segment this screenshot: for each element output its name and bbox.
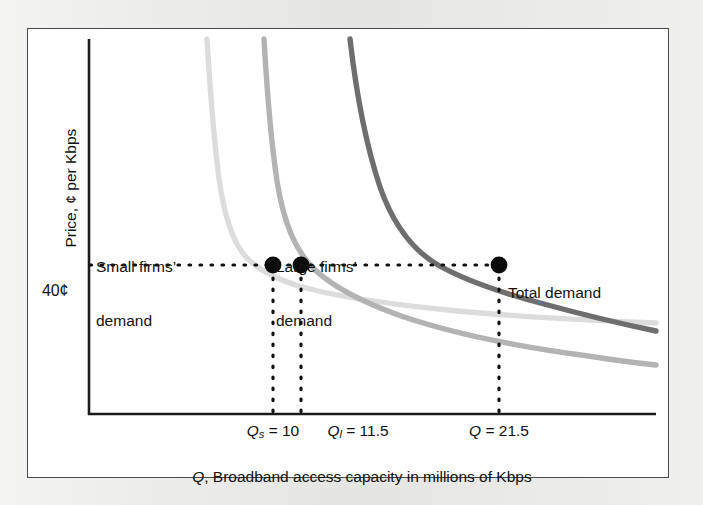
annotation-small-firms-demand: Small firms’ demand [96, 221, 176, 367]
annotation-small-firms-line2: demand [96, 312, 176, 330]
annotation-large-firms-line1: Large firms’ [276, 258, 357, 276]
x-tick-label-q-total: Q = 21.5 [469, 422, 529, 440]
annotation-large-firms-demand: Large firms’ demand [276, 221, 357, 367]
x-tick-q-symbol: Q [469, 422, 481, 439]
x-tick-q-value: = 21.5 [481, 422, 529, 439]
x-tick-qs-value: = 10 [264, 422, 299, 439]
x-tick-ql-symbol: Q [327, 422, 339, 439]
annotation-large-firms-line2: demand [276, 312, 357, 330]
x-axis-title: Q, Broadband access capacity in millions… [28, 450, 670, 505]
chart-card: Price, ¢ per Kbps 40¢ Small firms’ deman… [27, 28, 669, 478]
x-axis-title-text: , Broadband access capacity in millions … [204, 468, 531, 485]
equilibrium-point-total-demand [491, 257, 508, 274]
curve-total-demand [350, 39, 656, 331]
annotation-small-firms-line1: Small firms’ [96, 258, 176, 276]
y-tick-label-40c: 40¢ [42, 282, 68, 301]
x-axis-title-symbol: Q [192, 468, 204, 485]
x-tick-ql-value: = 11.5 [342, 422, 389, 439]
x-tick-qs-symbol: Q [247, 422, 259, 439]
figure-root: Price, ¢ per Kbps 40¢ Small firms’ deman… [0, 0, 703, 505]
annotation-total-demand: Total demand [508, 284, 601, 302]
x-tick-label-qs: Qs = 10 [247, 422, 299, 440]
x-tick-label-ql: Ql = 11.5 [327, 422, 388, 440]
y-axis-title: Price, ¢ per Kbps [62, 93, 80, 283]
